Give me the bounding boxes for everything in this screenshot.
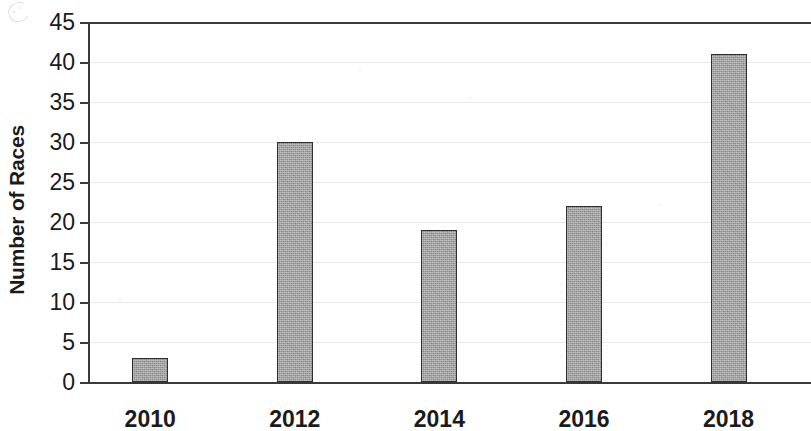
y-axis-title: Number of Races [2,0,32,420]
y-tick-mark [80,142,88,144]
plot-area: 051015202530354045 20102012201420162018 [88,22,811,382]
y-tick-mark [80,222,88,224]
y-tick-mark [80,22,88,24]
gridline [88,182,811,183]
x-tick-label: 2010 [125,408,176,431]
y-tick-label: 40 [49,51,75,74]
y-tick-label: 10 [49,291,75,314]
y-tick-label: 35 [49,91,75,114]
y-tick-mark [80,102,88,104]
bar-2016 [566,206,602,382]
axis-top-spine [88,22,811,24]
gridline [88,142,811,143]
axis-left-spine [88,22,90,383]
bar-2012 [277,142,313,382]
y-tick-label: 0 [62,371,75,394]
y-tick-mark [80,342,88,344]
gridline [88,102,811,103]
bar-2010 [132,358,168,382]
gridline [88,62,811,63]
gridline [88,222,811,223]
y-tick-mark [80,62,88,64]
y-tick-label: 30 [49,131,75,154]
y-tick-mark [80,182,88,184]
x-tick-label: 2012 [269,408,320,431]
x-tick-label: 2016 [558,408,609,431]
y-tick-label: 25 [49,171,75,194]
y-tick-mark [80,382,88,384]
y-tick-label: 15 [49,251,75,274]
x-tick-label: 2014 [414,408,465,431]
y-tick-label: 45 [49,11,75,34]
bar-2014 [421,230,457,382]
y-tick-label: 20 [49,211,75,234]
y-tick-mark [80,262,88,264]
bar-2018 [711,54,747,382]
axis-bottom-spine [88,382,811,384]
y-tick-mark [80,302,88,304]
y-tick-label: 5 [62,331,75,354]
x-tick-label: 2018 [703,408,754,431]
